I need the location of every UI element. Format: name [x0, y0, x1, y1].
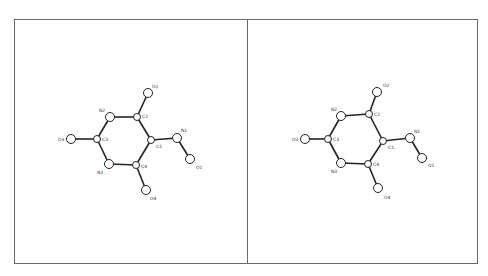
atom-o4: [374, 184, 383, 193]
atom-label-c3: C3: [333, 137, 339, 142]
atom-label-n3: N3: [97, 170, 103, 175]
atom-label-c1: C1: [388, 145, 394, 150]
atom-n1: [173, 134, 182, 143]
atom-label-c4: C4: [373, 162, 379, 167]
atom-o3: [67, 135, 76, 144]
atom-label-c4: C4: [141, 164, 147, 169]
atom-c2: [134, 114, 141, 121]
atom-label-o2: O2: [383, 83, 390, 88]
atom-o4: [142, 186, 151, 195]
atom-label-o4: O4: [384, 195, 391, 200]
atom-label-n1: N1: [181, 128, 187, 133]
atom-label-o4: O4: [150, 196, 157, 201]
bond-c4-c1: [136, 140, 151, 165]
atom-n1: [406, 134, 415, 143]
atom-label-c2: C2: [142, 114, 148, 119]
atom-c2: [366, 111, 373, 118]
bond-c4-c1: [368, 141, 383, 164]
atom-o2: [373, 88, 382, 97]
molecule-panel-left: O2C2N2C3O3N3C4O4C1N1O1: [58, 84, 203, 201]
atom-label-n2: N2: [99, 108, 105, 113]
atom-label-c3: C3: [102, 137, 108, 142]
molecule-stereo-view: O2C2N2C3O3N3C4O4C1N1O1 O2C2N2C3O3N3C4O4C…: [0, 0, 488, 276]
bond-c1-c2: [137, 117, 151, 140]
atom-label-o1: O1: [428, 163, 435, 168]
atom-label-n2: N2: [331, 107, 337, 112]
atom-label-o3: O3: [58, 137, 65, 142]
atom-c3: [325, 136, 332, 143]
atom-o1: [186, 155, 195, 164]
atom-n2: [106, 113, 115, 122]
atom-label-o3: O3: [292, 137, 299, 142]
atom-o3: [301, 135, 310, 144]
molecule-panel-right: O2C2N2C3O3N3C4O4C1N1O1: [292, 83, 435, 200]
atom-n3: [337, 159, 346, 168]
atom-label-n1: N1: [414, 129, 420, 134]
atom-c3: [94, 136, 101, 143]
atom-n2: [337, 112, 346, 121]
atom-c4: [365, 161, 372, 168]
atom-c1: [380, 138, 387, 145]
atom-o1: [418, 154, 427, 163]
atom-label-o1: O1: [196, 165, 203, 170]
atom-label-c2: C2: [374, 112, 380, 117]
atom-o2: [144, 89, 153, 98]
atom-c4: [133, 162, 140, 169]
atom-n3: [105, 160, 114, 169]
atom-label-n3: N3: [331, 169, 337, 174]
atom-c1: [148, 137, 155, 144]
bond-c1-c2: [369, 114, 383, 141]
atom-label-o2: O2: [152, 84, 159, 89]
atom-label-c1: C1: [156, 144, 162, 149]
